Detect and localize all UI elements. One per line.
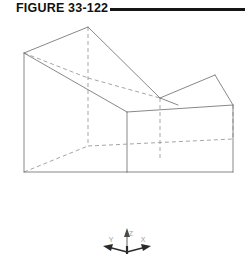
figure-title: FIGURE 33-122 <box>16 1 108 15</box>
visible-edge-top-left-rear-ridge <box>24 27 88 53</box>
visible-edge-notch-top-rear <box>88 27 160 98</box>
hidden-edge-rear-top-left <box>24 53 88 78</box>
visible-edge-top-right-rear <box>160 75 215 98</box>
visible-edge-notch-left-diagonal <box>24 53 127 112</box>
hidden-edge-bottom-rear-right <box>88 139 233 146</box>
visible-edges-group <box>24 27 233 172</box>
axis-label-x: X <box>141 236 146 243</box>
hidden-edge-bottom-rear-left <box>24 146 88 172</box>
figure-header: FIGURE 33-122 <box>0 0 251 20</box>
visible-edge-top-left-front-slope <box>160 98 178 105</box>
figure-root: FIGURE 33-122 <box>0 0 251 272</box>
figure-title-rule <box>110 8 245 11</box>
hidden-edges-group <box>24 27 233 172</box>
axis-x-arrowhead <box>141 244 151 251</box>
visible-edge-top-right-front-slope <box>127 105 233 112</box>
axis-y-arrowhead <box>103 244 113 251</box>
figure-drawing-canvas: Y Z X <box>0 18 251 272</box>
visible-edge-notch-right-face <box>215 75 233 105</box>
axis-triad-group: Y Z X <box>103 228 151 254</box>
axis-label-z: Z <box>129 230 134 237</box>
hidden-edge-notch-bottom <box>88 78 160 98</box>
isometric-block-svg: Y Z X <box>0 18 251 272</box>
axis-label-y: Y <box>109 236 114 243</box>
